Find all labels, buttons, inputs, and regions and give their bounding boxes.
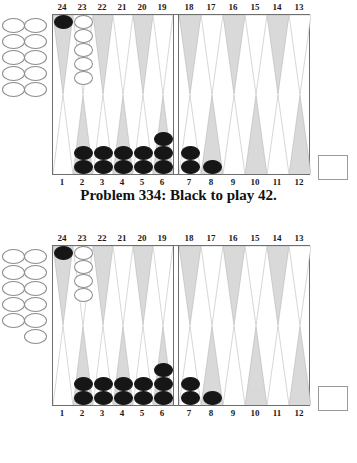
point-16[interactable] — [223, 246, 245, 326]
checker-stack-point-5[interactable] — [133, 377, 153, 405]
black-checker[interactable] — [154, 377, 173, 391]
checker-stack-point-4[interactable] — [113, 377, 133, 405]
black-checker[interactable] — [114, 160, 133, 174]
white-checker[interactable] — [74, 57, 93, 71]
checker-stack-point-3[interactable] — [93, 377, 113, 405]
black-checker[interactable] — [94, 391, 113, 405]
point-5[interactable] — [133, 95, 153, 175]
white-checker[interactable] — [74, 43, 93, 57]
point-24[interactable] — [53, 15, 73, 95]
checker-stack-point-24[interactable] — [53, 246, 73, 260]
point-21[interactable] — [113, 246, 133, 326]
black-checker[interactable] — [154, 160, 173, 174]
point-16[interactable] — [223, 15, 245, 95]
black-checker[interactable] — [54, 246, 73, 260]
point-8[interactable] — [201, 326, 223, 406]
white-checker-offboard[interactable] — [24, 329, 47, 344]
white-checker[interactable] — [74, 29, 93, 43]
white-checker[interactable] — [74, 288, 93, 302]
black-checker[interactable] — [154, 363, 173, 377]
black-checker[interactable] — [154, 132, 173, 146]
black-checker[interactable] — [94, 146, 113, 160]
bearoff-tray[interactable] — [318, 386, 348, 411]
white-checker[interactable] — [74, 71, 93, 85]
point-11[interactable] — [267, 326, 289, 406]
checker-stack-point-2[interactable] — [73, 146, 93, 174]
black-checker[interactable] — [74, 146, 93, 160]
checker-stack-point-5[interactable] — [133, 146, 153, 174]
point-9[interactable] — [223, 326, 245, 406]
black-checker[interactable] — [181, 146, 200, 160]
backgammon-board[interactable] — [52, 245, 310, 406]
black-checker[interactable] — [154, 146, 173, 160]
white-checker-offboard[interactable] — [24, 297, 47, 312]
white-checker-offboard[interactable] — [2, 313, 25, 328]
bearoff-tray[interactable] — [318, 155, 348, 180]
point-13[interactable] — [289, 246, 311, 326]
point-5[interactable] — [133, 326, 153, 406]
white-checker-offboard[interactable] — [2, 265, 25, 280]
black-checker[interactable] — [114, 391, 133, 405]
point-22[interactable] — [93, 15, 113, 95]
black-checker[interactable] — [74, 391, 93, 405]
point-18[interactable] — [179, 246, 201, 326]
white-checker[interactable] — [74, 274, 93, 288]
point-18[interactable] — [179, 15, 201, 95]
point-17[interactable] — [201, 15, 223, 95]
white-checker-offboard[interactable] — [2, 18, 25, 33]
white-checker-offboard[interactable] — [2, 66, 25, 81]
white-checker-offboard[interactable] — [2, 281, 25, 296]
point-22[interactable] — [93, 246, 113, 326]
white-checker-offboard[interactable] — [2, 297, 25, 312]
point-2[interactable] — [73, 95, 93, 175]
point-19[interactable] — [153, 246, 173, 326]
checker-stack-point-3[interactable] — [93, 146, 113, 174]
white-checker-offboard[interactable] — [2, 50, 25, 65]
point-10[interactable] — [245, 95, 267, 175]
checker-stack-point-23[interactable] — [73, 15, 93, 85]
checker-stack-point-6[interactable] — [153, 363, 173, 405]
point-8[interactable] — [201, 95, 223, 175]
point-4[interactable] — [113, 326, 133, 406]
point-7[interactable] — [179, 326, 201, 406]
point-23[interactable] — [73, 15, 93, 95]
white-checker-offboard[interactable] — [24, 18, 47, 33]
white-checker-offboard[interactable] — [2, 34, 25, 49]
point-20[interactable] — [133, 246, 153, 326]
point-10[interactable] — [245, 326, 267, 406]
black-checker[interactable] — [94, 160, 113, 174]
white-checker-offboard[interactable] — [2, 82, 25, 97]
black-checker[interactable] — [134, 146, 153, 160]
point-12[interactable] — [289, 326, 311, 406]
white-checker-offboard[interactable] — [24, 313, 47, 328]
white-checker-offboard[interactable] — [24, 82, 47, 97]
point-9[interactable] — [223, 95, 245, 175]
point-24[interactable] — [53, 246, 73, 326]
point-11[interactable] — [267, 95, 289, 175]
white-checker-offboard[interactable] — [2, 249, 25, 264]
point-21[interactable] — [113, 15, 133, 95]
black-checker[interactable] — [181, 160, 200, 174]
point-6[interactable] — [153, 326, 173, 406]
point-1[interactable] — [53, 95, 73, 175]
point-20[interactable] — [133, 15, 153, 95]
point-12[interactable] — [289, 95, 311, 175]
point-15[interactable] — [245, 15, 267, 95]
black-checker[interactable] — [74, 160, 93, 174]
point-4[interactable] — [113, 95, 133, 175]
black-checker[interactable] — [74, 377, 93, 391]
point-23[interactable] — [73, 246, 93, 326]
white-checker-offboard[interactable] — [24, 50, 47, 65]
black-checker[interactable] — [203, 391, 222, 405]
black-checker[interactable] — [154, 391, 173, 405]
checker-stack-point-23[interactable] — [73, 246, 93, 302]
white-checker-offboard[interactable] — [24, 34, 47, 49]
point-14[interactable] — [267, 246, 289, 326]
white-checker-offboard[interactable] — [24, 66, 47, 81]
white-checker-offboard[interactable] — [24, 265, 47, 280]
point-15[interactable] — [245, 246, 267, 326]
point-3[interactable] — [93, 95, 113, 175]
checker-stack-point-2[interactable] — [73, 377, 93, 405]
black-checker[interactable] — [114, 146, 133, 160]
checker-stack-point-6[interactable] — [153, 132, 173, 174]
